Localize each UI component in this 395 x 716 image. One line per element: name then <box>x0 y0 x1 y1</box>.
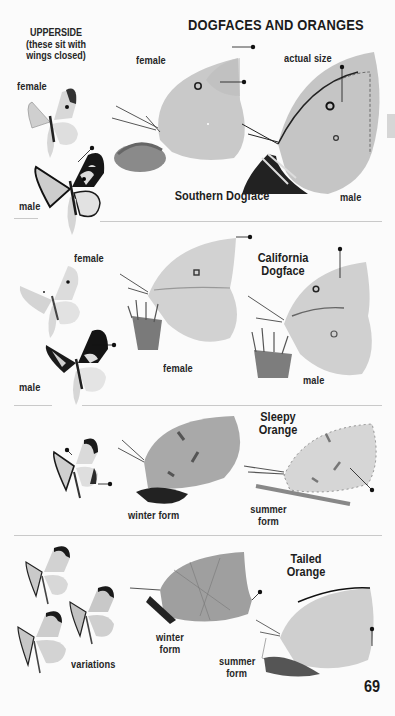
section-divider <box>100 221 382 222</box>
page-title: DOGFACES AND ORANGES <box>188 16 364 33</box>
section-divider <box>14 535 382 536</box>
butterfly-upperside-male-icon <box>32 145 112 237</box>
pointer-line-icon <box>350 468 376 494</box>
pointer-line-icon <box>339 64 345 104</box>
species-name-line2: Orange <box>283 566 329 579</box>
summer-form-label: summer form <box>250 503 287 527</box>
section-divider <box>82 405 382 406</box>
pointer-line-icon <box>64 447 74 457</box>
butterfly-side-male-icon <box>248 256 378 386</box>
winter-form-label: winter form <box>155 631 185 655</box>
butterfly-side-winter-icon <box>130 550 260 630</box>
winter-form-line1: winter <box>155 631 185 643</box>
butterfly-side-female-icon <box>108 40 253 170</box>
butterfly-side-winter-icon <box>118 412 246 504</box>
winter-form-label: winter form <box>128 509 179 521</box>
butterfly-variation-2-icon <box>68 582 124 648</box>
upperside-male-label: male <box>19 381 40 393</box>
upperside-note-line2: (these sit with <box>20 39 92 51</box>
butterfly-side-male-icon <box>238 44 383 214</box>
pointer-line-icon <box>236 234 254 240</box>
variations-label: variations <box>71 658 116 670</box>
winter-form-line2: form <box>155 643 185 655</box>
pointer-line-icon <box>369 626 375 648</box>
butterfly-side-summer-icon <box>256 588 376 684</box>
butterfly-variation-3-icon <box>16 607 76 677</box>
pointer-line-icon <box>78 144 98 164</box>
summer-form-line2: form <box>250 515 287 527</box>
side-female-label: female <box>163 362 193 374</box>
summer-form-line1: summer <box>219 655 254 667</box>
summer-form-label: summer form <box>219 655 254 679</box>
divider-short <box>14 405 52 406</box>
pointer-line-icon <box>337 246 343 280</box>
upperside-heading: UPPERSIDE <box>20 27 92 39</box>
upperside-note: UPPERSIDE (these sit with wings closed) <box>20 27 92 62</box>
page-number: 69 <box>364 677 380 697</box>
divider-short <box>14 218 38 219</box>
butterfly-upperside-male-icon <box>42 325 114 409</box>
species-name-tailed-orange: Tailed Orange <box>283 553 329 579</box>
pointer-line-icon <box>98 481 114 487</box>
pointer-line-icon <box>92 342 118 348</box>
summer-form-line2: form <box>219 667 254 679</box>
butterfly-upperside-icon <box>50 434 112 504</box>
side-thumb-tab <box>387 114 395 138</box>
butterfly-side-female-icon <box>118 230 248 360</box>
upperside-note-line3: wings closed) <box>20 50 92 62</box>
